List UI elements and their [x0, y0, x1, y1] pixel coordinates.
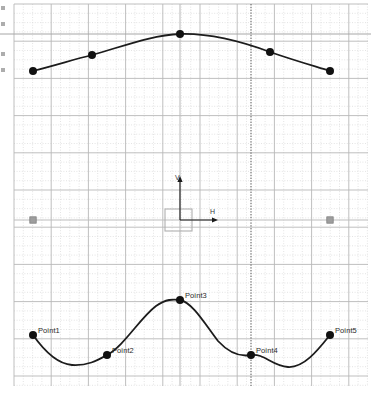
clipped-toolbar-marks: [0, 0, 371, 398]
clipped-toolbar-mark: [1, 6, 5, 10]
spline-editor-canvas[interactable]: V H Point1Point2Point3Point4Point5: [0, 0, 371, 398]
clipped-toolbar-mark: [1, 68, 5, 72]
clipped-toolbar-mark: [1, 22, 5, 26]
clipped-toolbar-mark: [1, 52, 5, 56]
